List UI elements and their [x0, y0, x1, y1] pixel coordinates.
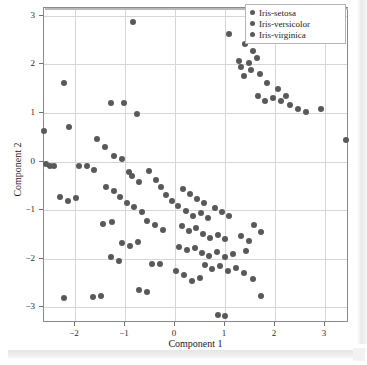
page-corner: [353, 348, 365, 361]
figure: −2−10123−3−2−10123 Component 1 Component…: [0, 0, 367, 365]
scatter-point: [264, 80, 270, 86]
gridline-vertical: [175, 8, 176, 321]
scatter-point: [190, 213, 196, 219]
scatter-point: [124, 200, 130, 206]
scatter-point: [194, 196, 200, 202]
y-axis-title: Component 2: [12, 120, 23, 220]
scatter-point: [209, 266, 215, 272]
x-axis-title: Component 1: [43, 338, 348, 349]
scatter-point: [226, 31, 232, 37]
x-tick-label: 1: [222, 328, 227, 338]
scatter-point: [241, 73, 247, 79]
y-tick-label: −2: [7, 253, 35, 263]
y-tick: [39, 258, 43, 259]
scatter-point: [136, 179, 142, 185]
scatter-point: [215, 232, 221, 238]
scatter-point: [94, 136, 100, 142]
scatter-point: [248, 67, 254, 73]
scatter-point: [84, 163, 90, 169]
gridline-vertical: [275, 8, 276, 321]
scatter-point: [197, 275, 203, 281]
scatter-point: [146, 168, 152, 174]
scatter-point: [198, 210, 204, 216]
x-tick: [174, 322, 175, 326]
scatter-point: [66, 124, 72, 130]
x-tick-label: 0: [172, 328, 177, 338]
scatter-point: [158, 184, 164, 190]
scatter-point: [199, 250, 205, 256]
x-tick-label: −2: [69, 328, 79, 338]
scatter-point: [180, 186, 186, 192]
scatter-point: [241, 270, 247, 276]
scatter-point: [215, 312, 221, 318]
scatter-point: [98, 293, 104, 299]
x-tick: [224, 322, 225, 326]
scatter-point: [163, 192, 169, 198]
scatter-point: [130, 19, 136, 25]
scatter-point: [205, 215, 211, 221]
scatter-point: [230, 251, 236, 257]
scatter-point: [100, 221, 106, 227]
scatter-point: [173, 268, 179, 274]
scatter-point: [73, 195, 79, 201]
scatter-point: [65, 198, 71, 204]
scatter-point: [187, 191, 193, 197]
scatter-point: [184, 247, 190, 253]
scatter-point: [157, 261, 163, 267]
scatter-point: [179, 223, 185, 229]
scatter-point: [283, 93, 289, 99]
scatter-point: [222, 313, 228, 319]
scatter-point: [254, 55, 260, 61]
scatter-point: [200, 231, 206, 237]
gridline-horizontal: [44, 307, 347, 308]
scatter-point: [275, 86, 281, 92]
scatter-point: [160, 227, 166, 233]
scatter-point: [102, 144, 108, 150]
x-tick: [124, 322, 125, 326]
legend-label: Iris-setosa: [259, 8, 296, 18]
scatter-point: [222, 236, 228, 242]
scatter-point: [61, 80, 67, 86]
scatter-point: [183, 208, 189, 214]
y-tick: [39, 15, 43, 16]
scatter-point: [192, 245, 198, 251]
scatter-point: [103, 184, 109, 190]
legend-marker-icon: [250, 21, 255, 26]
scatter-point: [258, 293, 264, 299]
legend-item[interactable]: Iris-virginica: [250, 29, 341, 40]
scatter-point: [144, 218, 150, 224]
scatter-point: [257, 71, 263, 77]
legend-item[interactable]: Iris-setosa: [250, 7, 341, 18]
scatter-point: [149, 261, 155, 267]
scatter-point: [258, 229, 264, 235]
gridline-vertical: [225, 8, 226, 321]
gridline-horizontal: [44, 259, 347, 260]
scatter-point: [238, 233, 244, 239]
gridline-horizontal: [44, 162, 347, 163]
scatter-point: [136, 287, 142, 293]
scatter-point: [222, 254, 228, 260]
scatter-point: [207, 235, 213, 241]
scatter-point: [108, 254, 114, 260]
scatter-point: [343, 137, 349, 143]
scatter-point: [255, 93, 261, 99]
scatter-point: [318, 106, 324, 112]
x-tick-label: 3: [322, 328, 327, 338]
scatter-point: [116, 258, 122, 264]
scatter-point: [189, 278, 195, 284]
scatter-point: [250, 48, 256, 54]
scatter-point: [201, 200, 207, 206]
scatter-point: [90, 294, 96, 300]
scatter-point: [226, 213, 232, 219]
scatter-point: [41, 128, 47, 134]
gridline-vertical: [325, 8, 326, 321]
legend-item[interactable]: Iris-versicolor: [250, 18, 341, 29]
plot-area: [43, 7, 348, 322]
y-tick: [39, 112, 43, 113]
scatter-point: [246, 238, 252, 244]
scatter-point: [225, 268, 231, 274]
x-tick: [74, 322, 75, 326]
scatter-point: [135, 239, 141, 245]
scatter-point: [144, 289, 150, 295]
y-tick: [39, 209, 43, 210]
